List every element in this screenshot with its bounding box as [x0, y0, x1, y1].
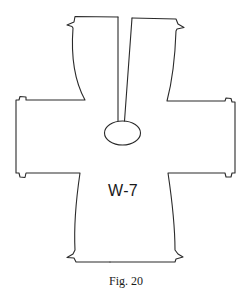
- front-slit-right: [125, 18, 133, 121]
- pattern-outline: [0, 0, 252, 302]
- neck-opening: [105, 121, 141, 145]
- right-outline: [110, 18, 235, 262]
- left-outline: [16, 17, 118, 263]
- piece-label: W-7: [93, 182, 153, 200]
- figure-caption: Fig. 20: [86, 274, 166, 289]
